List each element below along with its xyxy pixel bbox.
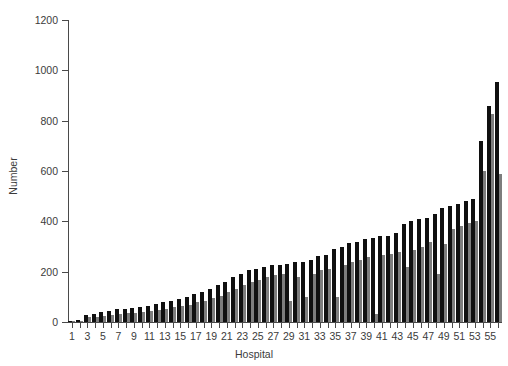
y-axis-tick-label: 800 bbox=[10, 116, 58, 127]
x-axis-tick bbox=[118, 323, 119, 328]
x-axis-tick bbox=[390, 323, 391, 328]
bar-dark bbox=[433, 214, 437, 322]
x-axis-tick bbox=[320, 323, 321, 328]
bar-dark bbox=[332, 249, 336, 322]
bar-dark bbox=[285, 264, 289, 322]
bar-dark bbox=[301, 262, 305, 322]
x-axis-tick bbox=[80, 323, 81, 328]
bar-chart-figure: 120010008006004002000 Number 13579111315… bbox=[0, 0, 508, 366]
x-axis-tick bbox=[95, 323, 96, 328]
bar-dark bbox=[270, 265, 274, 322]
x-axis-tick bbox=[165, 323, 166, 328]
x-axis-tick bbox=[312, 323, 313, 328]
x-axis-tick bbox=[157, 323, 158, 328]
x-axis-tick bbox=[196, 323, 197, 328]
bar-dark bbox=[378, 236, 382, 322]
plot-area bbox=[68, 20, 502, 322]
x-axis-tick bbox=[258, 323, 259, 328]
x-axis-tick bbox=[459, 323, 460, 328]
bar-dark bbox=[456, 204, 460, 322]
y-axis-tick-label: 1200 bbox=[10, 15, 58, 26]
x-axis-tick bbox=[428, 323, 429, 328]
bar-dark bbox=[402, 224, 406, 322]
x-axis-tick bbox=[413, 323, 414, 328]
bar-dark bbox=[223, 282, 227, 322]
x-axis-tick bbox=[304, 323, 305, 328]
x-axis-tick bbox=[134, 323, 135, 328]
bar-dark bbox=[394, 233, 398, 322]
x-axis-tick bbox=[227, 323, 228, 328]
x-axis-tick bbox=[475, 323, 476, 328]
x-axis-tick bbox=[273, 323, 274, 328]
x-axis-tick bbox=[397, 323, 398, 328]
bar-dark bbox=[464, 201, 468, 322]
bar-dark bbox=[169, 301, 173, 322]
bar-dark bbox=[409, 221, 413, 322]
x-axis-tick bbox=[421, 323, 422, 328]
bar-dark bbox=[130, 308, 134, 322]
bar-dark bbox=[185, 297, 189, 322]
bar-dark bbox=[200, 292, 204, 322]
x-axis-tick bbox=[297, 323, 298, 328]
x-axis-tick bbox=[72, 323, 73, 328]
y-axis-tick-label: 200 bbox=[10, 267, 58, 278]
bar-dark bbox=[107, 311, 111, 322]
bar-dark bbox=[161, 302, 165, 322]
bar-dark bbox=[154, 304, 158, 322]
x-axis-tick bbox=[111, 323, 112, 328]
x-axis-tick bbox=[351, 323, 352, 328]
bar-dark bbox=[386, 236, 390, 322]
bar-dark bbox=[448, 206, 452, 322]
bar-dark bbox=[417, 219, 421, 322]
bar-dark bbox=[309, 260, 313, 322]
bar-dark bbox=[471, 199, 475, 322]
y-axis-tick-label: 1000 bbox=[10, 65, 58, 76]
x-axis-tick bbox=[436, 323, 437, 328]
x-axis-tick bbox=[490, 323, 491, 328]
x-axis-tick bbox=[467, 323, 468, 328]
bar-dark bbox=[363, 239, 367, 322]
x-axis-tick bbox=[142, 323, 143, 328]
y-axis-tick-label: 400 bbox=[10, 216, 58, 227]
y-axis-title: Number bbox=[7, 141, 19, 211]
bar-dark bbox=[254, 269, 258, 322]
bar-dark bbox=[440, 208, 444, 323]
x-axis-tick bbox=[335, 323, 336, 328]
bar-dark bbox=[479, 141, 483, 322]
bar-dark bbox=[84, 315, 88, 322]
bar-dark bbox=[138, 307, 142, 322]
x-axis-tick bbox=[382, 323, 383, 328]
bar-dark bbox=[293, 262, 297, 322]
bar-dark bbox=[347, 243, 351, 322]
bar-dark bbox=[247, 270, 251, 322]
x-axis-tick bbox=[149, 323, 150, 328]
bar-dark bbox=[487, 106, 491, 322]
x-axis-tick bbox=[374, 323, 375, 328]
x-axis-tick bbox=[366, 323, 367, 328]
bar-dark bbox=[177, 299, 181, 322]
bar-dark bbox=[262, 267, 266, 322]
bar-dark bbox=[371, 238, 375, 322]
x-axis-tick bbox=[250, 323, 251, 328]
bar-dark bbox=[355, 242, 359, 322]
x-axis-tick bbox=[444, 323, 445, 328]
x-axis-tick bbox=[405, 323, 406, 328]
x-axis-tick bbox=[498, 323, 499, 328]
bar-dark bbox=[216, 285, 220, 322]
x-axis-tick bbox=[87, 323, 88, 328]
bar-dark bbox=[99, 312, 103, 322]
bar-dark bbox=[495, 82, 499, 322]
x-axis-tick bbox=[235, 323, 236, 328]
bar-dark bbox=[115, 309, 119, 322]
bar-dark bbox=[146, 306, 150, 322]
x-axis-tick-label: 55 bbox=[480, 331, 500, 342]
x-axis-tick bbox=[180, 323, 181, 328]
bar-dark bbox=[425, 218, 429, 322]
x-axis-tick bbox=[359, 323, 360, 328]
x-axis-tick bbox=[452, 323, 453, 328]
x-axis-tick bbox=[173, 323, 174, 328]
bar-dark bbox=[76, 320, 80, 322]
x-axis-tick bbox=[103, 323, 104, 328]
x-axis-title: Hospital bbox=[0, 348, 508, 360]
x-axis-tick bbox=[126, 323, 127, 328]
